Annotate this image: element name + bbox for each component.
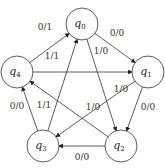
- transition-label: 1/1: [37, 100, 51, 110]
- transition-label: 0/0: [10, 101, 25, 111]
- transition-label: 1/1: [45, 51, 59, 61]
- state-q2: q2: [105, 130, 137, 162]
- state-diagram: 0/10/01/01/11/01/01/10/00/00/0 q0q1q2q3q…: [0, 0, 165, 168]
- transition-label: 1/0: [86, 102, 101, 112]
- transition-label: 0/0: [141, 102, 156, 112]
- state-q3: q3: [27, 130, 59, 162]
- transition-q3-q4: [22, 87, 37, 131]
- transition-label: 0/0: [110, 28, 125, 38]
- transition-label: 1/0: [114, 84, 129, 94]
- transition-label: 0/1: [38, 22, 52, 32]
- transition-label: 0/0: [75, 152, 90, 162]
- transition-label: 1/0: [94, 46, 109, 56]
- state-q4: q4: [1, 56, 33, 88]
- state-q1: q1: [132, 56, 164, 88]
- state-q0: q0: [66, 8, 98, 40]
